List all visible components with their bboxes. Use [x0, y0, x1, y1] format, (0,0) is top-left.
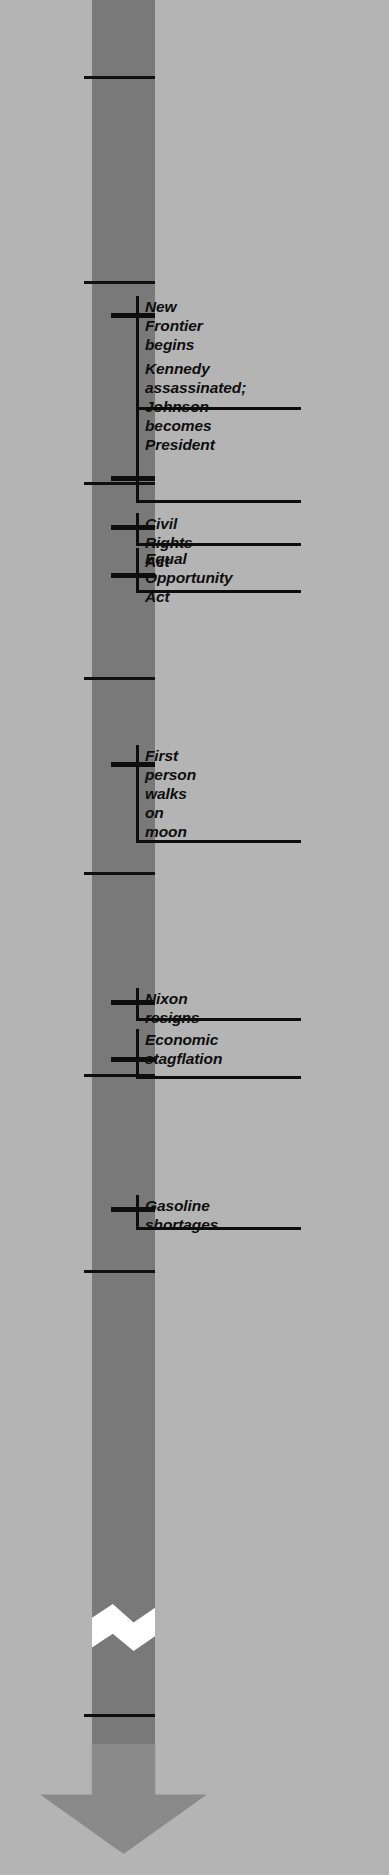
callout-baseline	[136, 1076, 301, 1079]
callout-bracket	[136, 548, 139, 590]
year-tick-line	[84, 872, 155, 875]
event-label: New Frontier begins	[145, 297, 203, 354]
year-tick-line	[84, 677, 155, 680]
event-label: Nixon resigns	[145, 989, 199, 1027]
year-tick-line	[84, 1714, 155, 1717]
year-tick-line	[84, 482, 155, 485]
year-tick-line	[84, 281, 155, 284]
year-tick-line	[84, 76, 155, 79]
timeline-arrow-icon	[40, 1744, 207, 1854]
event-label: Equal Opportunity Act	[145, 549, 233, 606]
event-label: Kennedy assassinated; Johnson becomes Pr…	[145, 359, 246, 454]
year-tick-line	[84, 1270, 155, 1273]
callout-baseline	[136, 500, 301, 503]
timeline-figure: 19551960196519701975198019852000 New Fro…	[0, 0, 389, 1875]
callout-bracket	[136, 745, 139, 840]
callout-tick	[111, 476, 155, 481]
event-label: Gasoline shortages	[145, 1196, 218, 1234]
event-label: Economic stagflation	[145, 1030, 222, 1068]
event-label: First person walks on moon	[145, 746, 196, 841]
callout-bracket	[136, 1029, 139, 1076]
